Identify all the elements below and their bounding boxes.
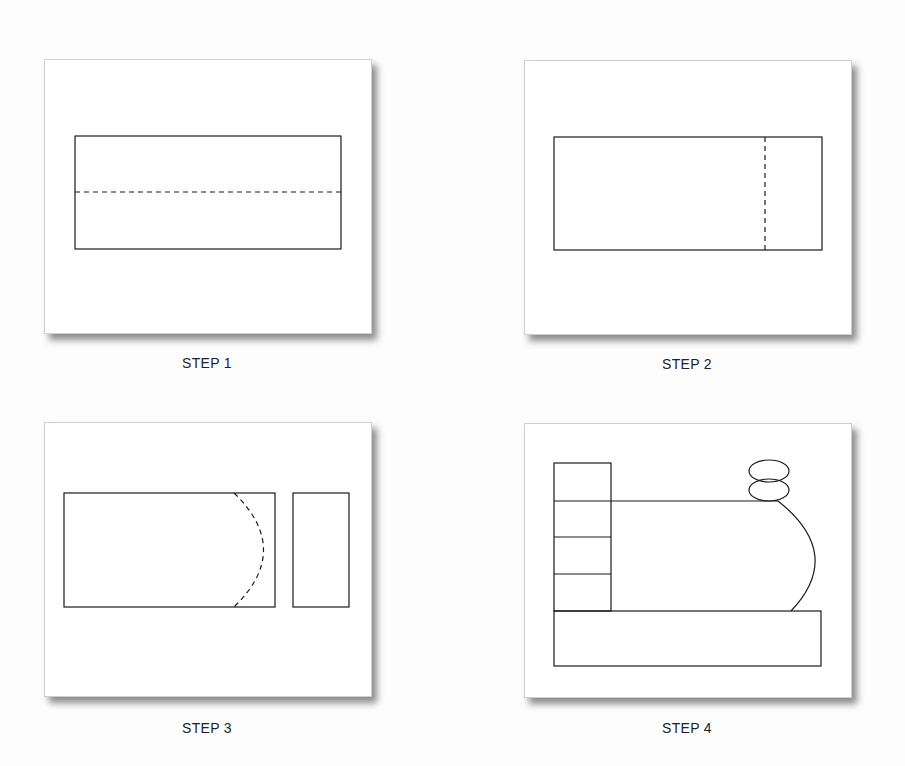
cut-off-rectangle	[293, 493, 349, 607]
step2-panel	[524, 60, 852, 335]
step4-diagram	[525, 424, 851, 697]
boiler-rectangle	[64, 493, 275, 607]
step3-diagram	[45, 423, 371, 696]
step4-caption: STEP 4	[524, 720, 850, 736]
step2-diagram	[525, 61, 851, 334]
step3-panel	[44, 422, 372, 697]
step2-caption: STEP 2	[524, 356, 850, 372]
step4-panel	[524, 423, 852, 698]
step3-caption: STEP 3	[44, 720, 370, 736]
boiler-front-curve	[778, 501, 815, 611]
step1-diagram	[45, 60, 371, 333]
base-rectangle	[554, 611, 821, 666]
step1-caption: STEP 1	[44, 355, 370, 371]
step1-panel	[44, 59, 372, 334]
curved-cut-line	[234, 493, 264, 607]
paper-rectangle	[554, 137, 822, 250]
